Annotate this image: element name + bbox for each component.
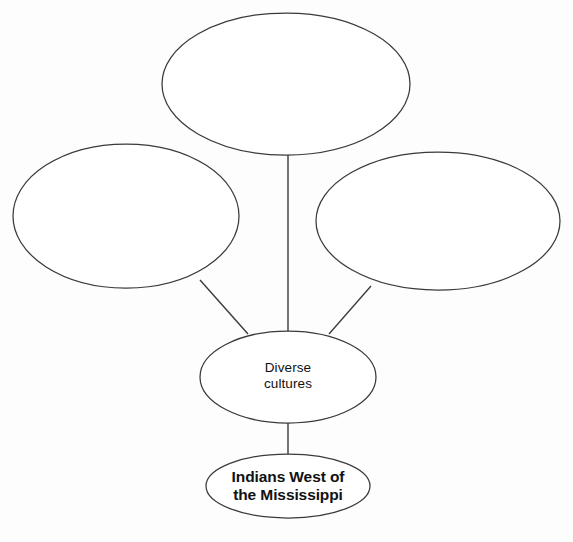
- graphic-organizer-canvas: Diverse cultures Indians West of the Mis…: [0, 0, 573, 542]
- oval-root-topic[interactable]: [206, 454, 370, 518]
- oval-diverse-cultures[interactable]: [200, 331, 376, 423]
- oval-blank-right[interactable]: [316, 152, 560, 290]
- connector-left-to-center: [200, 280, 248, 334]
- oval-blank-left[interactable]: [13, 144, 239, 288]
- connector-right-to-center: [329, 286, 371, 334]
- organizer-drawing: [0, 0, 573, 542]
- oval-blank-top[interactable]: [162, 13, 410, 155]
